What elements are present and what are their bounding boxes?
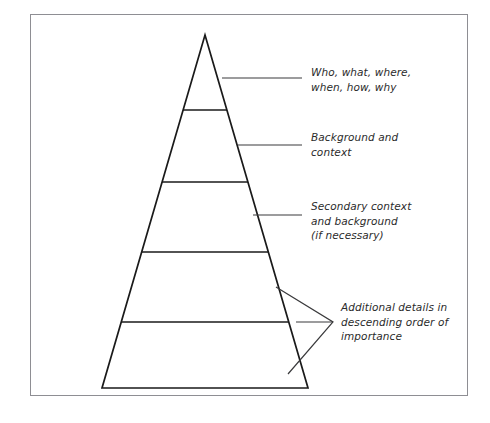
annotation-label-who-what-where: Who, what, where, when, how, why xyxy=(311,65,461,94)
annotation-label-background-and-context: Background and context xyxy=(311,130,461,159)
annotation-label-additional-details: Additional details in descending order o… xyxy=(341,300,481,344)
figure-page: Who, what, where, when, how, why Backgro… xyxy=(0,0,490,423)
annotation-label-secondary-context: Secondary context and background (if nec… xyxy=(311,199,466,243)
